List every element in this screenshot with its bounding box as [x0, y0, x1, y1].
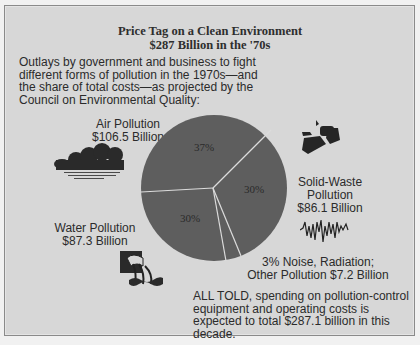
solid-amount: $86.1 Billion — [295, 202, 365, 215]
other-line2: Other Pollution $7.2 Billion — [228, 269, 408, 282]
water-pipe-icon — [119, 250, 167, 290]
cloud-icon — [52, 143, 137, 183]
trash-icon — [298, 118, 348, 158]
water-amount: $87.3 Billion — [40, 235, 150, 248]
air-pct: 37% — [194, 141, 214, 153]
other-label: 3% Noise, Radiation; Other Pollution $7.… — [228, 256, 408, 282]
chart-title-line1: Price Tag on a Clean Environment — [0, 24, 420, 38]
intro-text: Outlays by government and business to fi… — [19, 56, 259, 106]
seismograph-icon — [300, 218, 355, 246]
solid-pct: 30% — [244, 183, 264, 195]
chart-title-line2: $287 Billion in the '70s — [0, 38, 420, 52]
water-label: Water Pollution $87.3 Billion — [40, 222, 150, 248]
footer-text: ALL TOLD, spending on pollution-control … — [193, 290, 413, 340]
solid-label: Solid-Waste Pollution $86.1 Billion — [295, 176, 365, 215]
pie-chart: 37% 30% 30% — [140, 114, 290, 264]
water-pct: 30% — [180, 212, 200, 224]
